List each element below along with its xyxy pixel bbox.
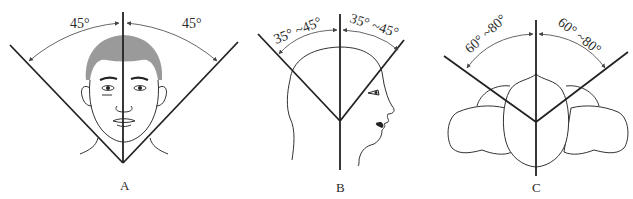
face-outline <box>90 80 159 142</box>
right-eyebrow <box>131 78 148 80</box>
profile-lips-icon <box>376 122 384 128</box>
nose-icon <box>116 106 132 112</box>
angle-label-right-a: 45° <box>182 16 202 31</box>
left-axis-a <box>10 45 123 163</box>
left-shoulder-outline <box>448 106 512 154</box>
angle-label-left-a: 45° <box>70 16 90 31</box>
hair-shape <box>86 35 162 80</box>
angle-label-right-c: 60° ~80° <box>555 15 604 58</box>
left-axis-b <box>258 34 340 121</box>
panel-a: 45° 45° A <box>10 12 238 193</box>
panel-c: 60° ~80° 60° ~80° C <box>444 11 628 195</box>
mouth-icon <box>113 119 135 127</box>
panel-label-b: B <box>336 180 345 195</box>
neck-outline <box>80 138 168 154</box>
right-shoulder-outline <box>564 106 628 154</box>
panel-label-a: A <box>120 178 130 193</box>
left-eyebrow <box>100 78 117 80</box>
panel-label-c: C <box>532 180 541 195</box>
panel-b: 35° ~45° 35° ~45° B <box>258 11 404 195</box>
figure-canvas: 45° 45° A 35° ~45° 35° ~45° B <box>0 0 633 199</box>
angle-label-left-b: 35° ~45° <box>272 14 324 47</box>
